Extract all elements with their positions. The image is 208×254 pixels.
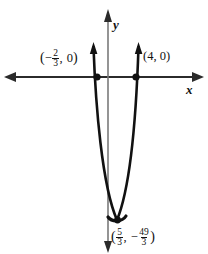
x-axis-arrow-right bbox=[192, 72, 204, 82]
vertex-label-open-paren: ( bbox=[111, 229, 116, 244]
horizontal-axis bbox=[4, 72, 204, 82]
point-x-intercept-left bbox=[93, 73, 100, 80]
x-intercept-left-label: (−23, 0) bbox=[40, 49, 78, 69]
parabola-right-arm bbox=[117, 47, 139, 220]
parabola-curve bbox=[90, 42, 143, 221]
x-intercept-right-label: (4, 0) bbox=[143, 50, 170, 63]
vertex-label-minus-sign: − bbox=[131, 230, 138, 244]
left-label-numerator: 2 bbox=[52, 49, 59, 59]
vertex-label: (53, −493) bbox=[111, 228, 155, 248]
y-axis-arrow-top bbox=[104, 9, 112, 22]
left-label-close-paren: ) bbox=[73, 50, 78, 65]
parabola-figure: y x (−23, 0) (4, 0) (53, −493) bbox=[0, 0, 208, 254]
point-vertex bbox=[114, 217, 121, 224]
parabola-right-arrow bbox=[135, 42, 143, 54]
parabola-left-arm bbox=[94, 47, 118, 220]
left-label-denominator: 3 bbox=[52, 58, 59, 69]
left-label-fraction: 23 bbox=[52, 49, 59, 69]
vertex-label-close-paren: ) bbox=[150, 229, 155, 244]
left-label-minus-sign: − bbox=[45, 51, 52, 65]
y-axis-label: y bbox=[113, 18, 119, 31]
parabola-left-arrow bbox=[90, 42, 98, 54]
vertex-label-x-denominator: 3 bbox=[116, 237, 123, 248]
vertex-label-y-numerator: 49 bbox=[138, 228, 150, 238]
vertex-label-x-fraction: 53 bbox=[116, 228, 123, 248]
point-x-intercept-right bbox=[132, 73, 139, 80]
vertex-label-x-numerator: 5 bbox=[116, 228, 123, 238]
graph-canvas bbox=[0, 0, 208, 254]
left-label-comma: , bbox=[59, 51, 66, 65]
x-axis-label: x bbox=[186, 83, 193, 96]
vertex-label-comma: , bbox=[123, 230, 130, 244]
x-axis-arrow-left bbox=[4, 72, 16, 82]
vertex-label-y-fraction: 493 bbox=[138, 228, 150, 248]
vertex-label-y-denominator: 3 bbox=[141, 237, 148, 248]
